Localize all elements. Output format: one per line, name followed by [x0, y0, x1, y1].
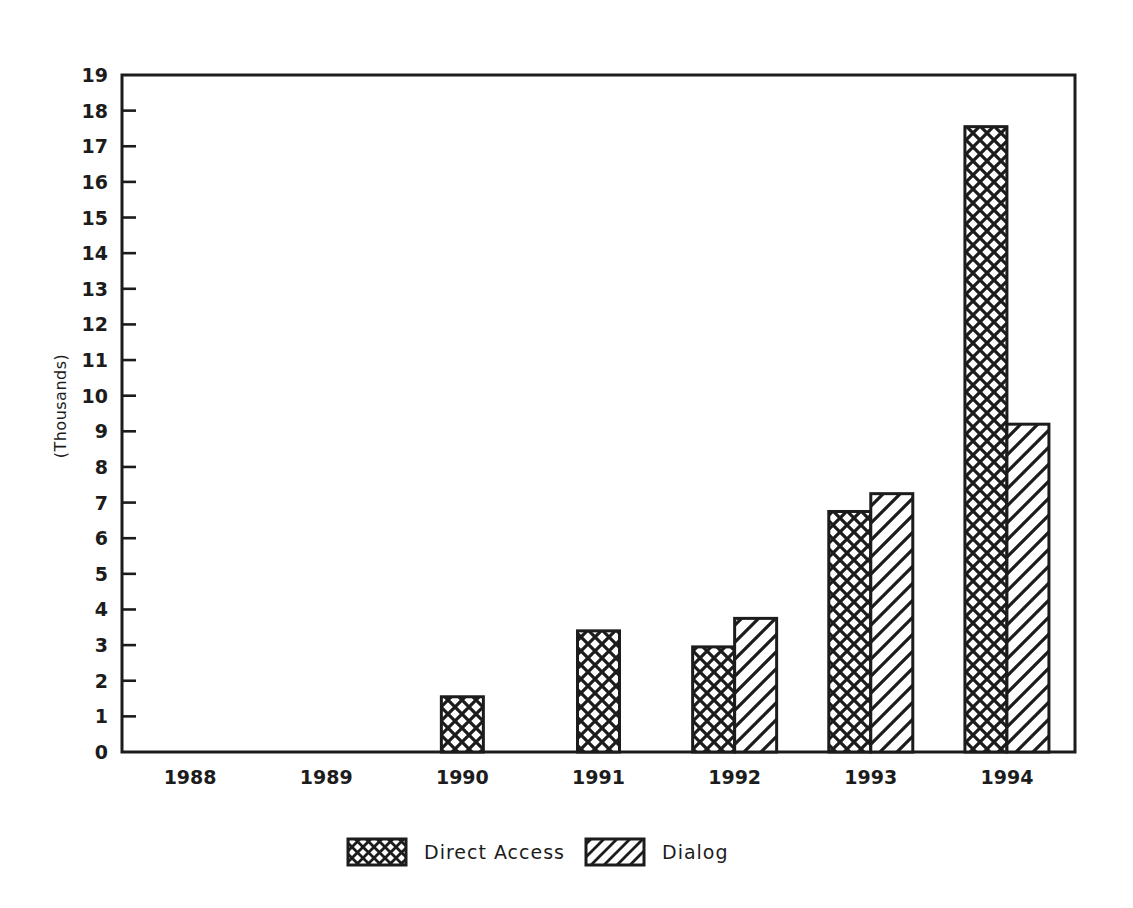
y-axis-tick-label: 13 — [82, 278, 108, 300]
y-axis-tick-label: 2 — [95, 670, 108, 692]
y-axis-tick-label: 15 — [82, 207, 108, 229]
y-axis-tick-label: 6 — [95, 527, 108, 549]
legend-label: Dialog — [662, 841, 729, 863]
bar — [871, 494, 913, 752]
y-axis-title: (Thousands) — [51, 354, 70, 459]
y-axis-tick-label: 14 — [82, 242, 108, 264]
bar — [441, 697, 483, 752]
bar — [735, 618, 777, 752]
y-axis-tick-label: 19 — [82, 64, 108, 86]
y-axis-tick-label: 11 — [82, 349, 108, 371]
y-axis-tick-label: 3 — [95, 634, 108, 656]
y-axis-tick-label: 18 — [82, 100, 108, 122]
y-axis-tick-label: 8 — [95, 456, 108, 478]
legend-label: Direct Access — [424, 841, 565, 863]
y-axis-tick-label: 4 — [95, 598, 108, 620]
x-axis-tick-label: 1993 — [844, 766, 897, 788]
legend-swatch — [348, 839, 406, 865]
x-axis-tick-label: 1988 — [164, 766, 217, 788]
y-axis-tick-label: 10 — [82, 385, 108, 407]
y-axis-tick-label: 16 — [82, 171, 108, 193]
y-axis-tick-label: 0 — [95, 741, 108, 763]
bar — [965, 127, 1007, 752]
y-axis-tick-label: 5 — [95, 563, 108, 585]
x-axis-tick-label: 1989 — [300, 766, 353, 788]
y-axis-tick-label: 17 — [82, 135, 108, 157]
y-axis-tick-label: 12 — [82, 313, 108, 335]
chart-legend: Direct AccessDialog — [348, 839, 729, 865]
y-axis-tick-label: 1 — [95, 705, 108, 727]
x-axis-tick-label: 1990 — [436, 766, 489, 788]
y-axis-tick-label: 9 — [95, 420, 108, 442]
x-axis-tick-label: 1992 — [708, 766, 761, 788]
bar — [1007, 424, 1049, 752]
bar — [578, 631, 620, 752]
bar — [693, 647, 735, 752]
x-axis-tick-label: 1994 — [980, 766, 1033, 788]
legend-swatch — [586, 839, 644, 865]
bar-chart-figure: 012345678910111213141516171819 (Thousand… — [0, 0, 1133, 908]
x-axis-tick-label: 1991 — [572, 766, 625, 788]
bar — [829, 511, 871, 752]
y-axis-tick-label: 7 — [95, 492, 108, 514]
chart-canvas: 012345678910111213141516171819 (Thousand… — [0, 0, 1133, 908]
